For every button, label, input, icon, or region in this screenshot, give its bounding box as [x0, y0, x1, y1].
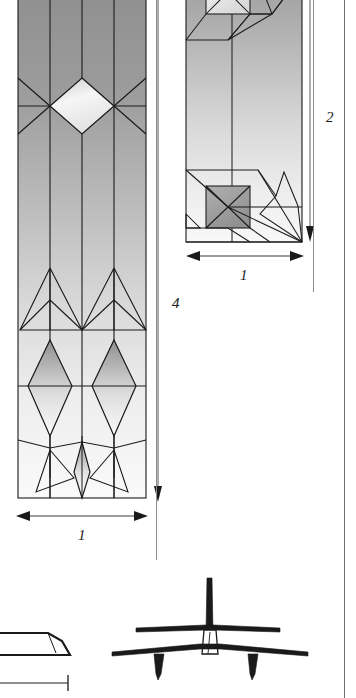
left-inner-rule: [156, 0, 157, 560]
right-width-dimension: 1: [180, 246, 320, 296]
right-height-dimension: 2: [300, 0, 346, 260]
dimension-label-2: 2: [326, 109, 334, 125]
dimension-label-4: 4: [172, 295, 180, 311]
right-inner-rule: [313, 0, 314, 292]
dimension-label-1-left: 1: [78, 527, 86, 543]
right-outer-rule: [344, 0, 345, 698]
figure-root: 4 1: [0, 0, 356, 698]
aircraft-side-view-partial: [0, 595, 110, 698]
left-width-dimension: 1: [0, 505, 180, 560]
aircraft-front-view: [100, 570, 320, 698]
dimension-label-1-right: 1: [240, 267, 248, 283]
